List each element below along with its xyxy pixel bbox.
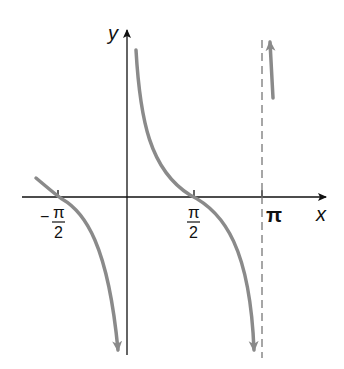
tangent-graph: y x − π 2 π 2 π [0, 0, 344, 369]
tick-label-neg-half-pi-sign: − [40, 208, 49, 225]
y-axis-label: y [106, 22, 119, 44]
tick-label-half-pi-num: π [188, 203, 200, 222]
tick-label-pi: π [266, 203, 282, 226]
tick-label-neg-half-pi-num: π [53, 203, 65, 222]
curve-branch-left [36, 178, 118, 350]
x-axis-label: x [315, 203, 327, 225]
tick-label-half-pi-den: 2 [189, 224, 198, 241]
curve-branch-right [270, 42, 273, 98]
curve-branch-middle [136, 50, 254, 350]
tick-label-neg-half-pi-den: 2 [54, 224, 63, 241]
